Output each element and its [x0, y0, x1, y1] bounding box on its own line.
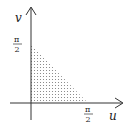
svg-text:2: 2 [86, 115, 91, 124]
diagram-canvas: v u π 2 π 2 [0, 0, 130, 131]
svg-text:π: π [14, 35, 19, 44]
y-axis-label: v [15, 11, 22, 25]
x-tick-label: π 2 [84, 105, 93, 124]
y-tick-label: π 2 [13, 35, 22, 54]
shaded-triangle-region [31, 45, 88, 103]
x-axis-label: u [109, 109, 117, 123]
svg-text:2: 2 [15, 45, 20, 54]
svg-text:π: π [85, 105, 90, 114]
